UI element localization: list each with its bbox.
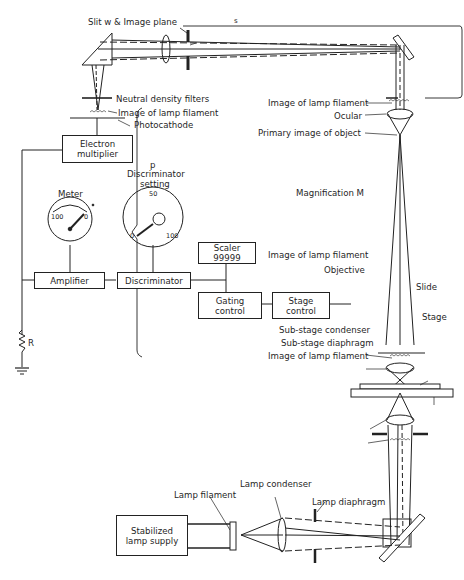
meter-scale-right: 0 xyxy=(84,214,88,221)
discriminator-title-line2: setting xyxy=(140,179,170,189)
substage-condenser-lens xyxy=(386,415,414,425)
electron-multiplier-box: Electron multiplier xyxy=(62,135,133,163)
image-lamp-filament-ocular-label: Image of lamp filament xyxy=(268,98,368,108)
discriminator-scale-top: 50 xyxy=(149,191,157,198)
lamp-supply-box: Stabilized lamp supply xyxy=(116,515,188,556)
stage-label: Stage xyxy=(422,312,447,322)
lamp-filament-coil xyxy=(230,522,236,550)
electron-multiplier-line1: Electron xyxy=(80,139,115,149)
ocular-lens xyxy=(387,109,413,119)
lamp-filament-label: Lamp filament xyxy=(174,490,236,500)
photocathode-label: Photocathode xyxy=(134,120,193,130)
gating-control-box: Gating control xyxy=(198,292,262,319)
stage-control-line1: Stage xyxy=(289,296,314,306)
lamp-condenser-label: Lamp condenser xyxy=(240,479,312,489)
slit-label: Slit w & Image plane xyxy=(88,17,177,27)
stage-control-box: Stage control xyxy=(272,292,330,319)
electron-multiplier-line2: multiplier xyxy=(77,149,118,159)
s-marker-label: s xyxy=(234,16,238,26)
discriminator-title-line1: Discriminator xyxy=(127,169,185,179)
stage xyxy=(351,389,453,397)
lamp-supply-line1: Stabilized xyxy=(131,526,173,536)
gating-control-line1: Gating xyxy=(216,296,245,306)
magnification-label: Magnification M xyxy=(296,188,364,198)
substage-diaphragm-label: Sub-stage diaphragm xyxy=(281,338,374,348)
discriminator-scale-left: 0 xyxy=(130,233,134,240)
image-lamp-filament-objective-label: Image of lamp filament xyxy=(268,250,368,260)
image-lamp-filament-substage-label: Image of lamp filament xyxy=(268,351,368,361)
discriminator-scale-right: 100 xyxy=(166,233,178,240)
scaler-line1: Scaler xyxy=(214,243,241,253)
substage-condenser-label: Sub-stage condenser xyxy=(279,325,370,335)
meter-scale-left: 100 xyxy=(51,214,63,221)
scaler-counter: 99999 xyxy=(213,253,240,263)
amplifier-box: Amplifier xyxy=(34,272,105,289)
primary-image-label: Primary image of object xyxy=(258,128,361,138)
discriminator-box: Discriminator xyxy=(117,272,191,289)
discriminator-label: Discriminator xyxy=(125,276,183,286)
resistor-label: R xyxy=(28,338,34,348)
objective-label: Objective xyxy=(324,265,365,275)
lamp-supply-line2: lamp supply xyxy=(126,536,179,546)
stage-control-line2: control xyxy=(286,306,316,316)
image-lamp-filament-top-label: Image of lamp filament xyxy=(118,108,218,118)
slide-label: Slide xyxy=(416,282,437,292)
lamp-diaphragm-label: Lamp diaphragm xyxy=(312,497,385,507)
meter-title: Meter xyxy=(58,189,83,199)
neutral-density-label: Neutral density filters xyxy=(116,94,209,104)
gating-control-line2: control xyxy=(215,306,245,316)
scaler-box: Scaler 99999 xyxy=(198,242,256,264)
ocular-label: Ocular xyxy=(334,111,362,121)
lower-mirror xyxy=(379,514,425,562)
slide xyxy=(360,384,440,389)
amplifier-label: Amplifier xyxy=(50,276,89,286)
